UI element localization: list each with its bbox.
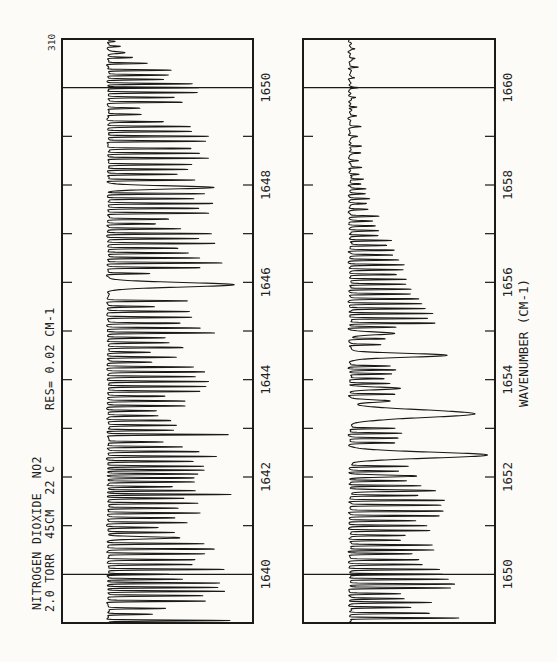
tick-label-1650: 1650 bbox=[258, 73, 273, 103]
tick-label-1650: 1650 bbox=[500, 559, 515, 589]
rotated-landscape-canvas: NITROGEN DIOXIDE NO2 2.0 TORR 45CM 22 C … bbox=[0, 0, 557, 662]
tick-label-1654: 1654 bbox=[500, 365, 515, 395]
tick-label-1660: 1660 bbox=[500, 73, 515, 103]
spectra-plot: 1640164216441646164816501650165216541656… bbox=[0, 0, 557, 662]
tick-label-1646: 1646 bbox=[258, 267, 273, 297]
tick-label-1648: 1648 bbox=[258, 170, 273, 200]
axis-title: WAVENUMBER (CM-1) bbox=[516, 279, 531, 407]
tick-label-1652: 1652 bbox=[500, 462, 515, 492]
tick-label-1642: 1642 bbox=[258, 462, 273, 492]
tick-label-1640: 1640 bbox=[258, 559, 273, 589]
tick-label-1644: 1644 bbox=[258, 365, 273, 395]
tick-label-1658: 1658 bbox=[500, 170, 515, 200]
spectrum-trace-upper bbox=[106, 39, 234, 623]
scanned-spectrum-page: NITROGEN DIOXIDE NO2 2.0 TORR 45CM 22 C … bbox=[0, 0, 557, 662]
spectrum-trace-lower bbox=[348, 39, 487, 623]
tick-label-1656: 1656 bbox=[500, 267, 515, 297]
